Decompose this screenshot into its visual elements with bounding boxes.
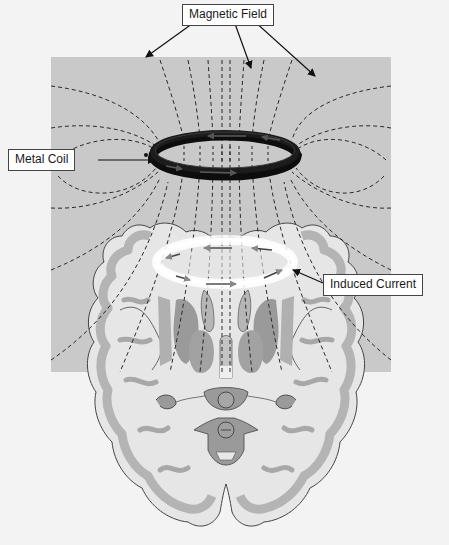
metal-coil-label: Metal Coil — [8, 149, 75, 171]
tms-diagram — [0, 0, 449, 545]
magnetic-field-label: Magnetic Field — [182, 4, 274, 26]
field-point-dot — [298, 153, 302, 157]
field-point-dot — [144, 153, 148, 157]
coil-current-arrow-icon — [200, 172, 236, 173]
induced-current-label: Induced Current — [323, 274, 423, 296]
